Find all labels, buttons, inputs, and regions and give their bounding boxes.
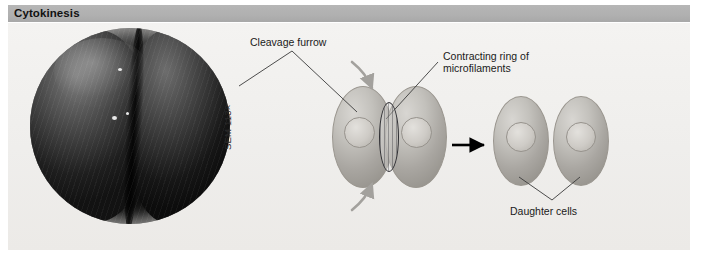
furrowing-cell-right-nucleus [401, 117, 432, 148]
dividing-cell-sem-image [30, 28, 230, 224]
sem-surface-texture [30, 28, 230, 224]
figure-header-title: Cytokinesis [14, 7, 80, 19]
microfilament-striations [380, 103, 398, 171]
contracting-ring-label-line1: Contracting ring of [443, 50, 529, 62]
contracting-ring-of-microfilaments [379, 102, 399, 172]
contracting-ring-label: Contracting ring of microfilaments [443, 50, 529, 74]
furrowing-cell-left-nucleus [344, 117, 375, 148]
sem-magnification-credit: SEM 113× [222, 104, 233, 150]
sem-speck [126, 112, 129, 115]
figure-header-bar [8, 5, 690, 22]
sem-speck [112, 116, 117, 120]
cytokinesis-figure: Cytokinesis SEM 113× [0, 0, 701, 274]
cleavage-furrow-label: Cleavage furrow [250, 36, 326, 48]
daughter-cell-left-nucleus [506, 122, 536, 152]
contracting-ring-label-line2: microfilaments [443, 62, 529, 74]
daughter-cells-label: Daughter cells [510, 205, 577, 217]
sem-speck [118, 68, 122, 71]
sem-micrograph [30, 28, 230, 228]
daughter-cell-right-nucleus [566, 122, 596, 152]
